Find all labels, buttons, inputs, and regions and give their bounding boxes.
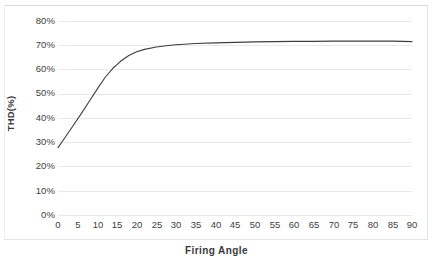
- y-tick-label: 80%: [36, 16, 55, 26]
- plot-area: [58, 21, 412, 215]
- y-tick-label: 20%: [36, 161, 55, 171]
- y-tick-label: 60%: [36, 64, 55, 74]
- y-axis-title: THD(%): [5, 86, 16, 142]
- x-tick-label: 90: [400, 219, 424, 230]
- y-tick-label: 30%: [36, 137, 55, 147]
- y-tick-label: 10%: [36, 186, 55, 196]
- y-tick-label: 40%: [36, 113, 55, 123]
- chart-figure: THD(%) 80% 70% 60% 50% 40% 30% 20% 10% 0…: [0, 0, 433, 269]
- thd-series-line: [58, 41, 412, 147]
- thd-curve-svg: [58, 21, 412, 215]
- gridline: [58, 215, 412, 216]
- x-axis-title: Firing Angle: [0, 245, 433, 256]
- y-tick-label: 50%: [36, 88, 55, 98]
- x-axis-tick-labels: 0 5 10 15 20 25 30 35 40 45 50 55 60 65 …: [0, 219, 433, 233]
- y-tick-label: 70%: [36, 40, 55, 50]
